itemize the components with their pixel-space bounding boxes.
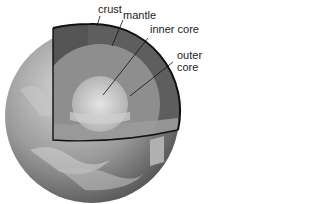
label-crust: crust [98,3,122,15]
label-inner-core: inner core [150,23,199,35]
label-outer-core-line1: outer [177,49,202,61]
label-mantle: mantle [123,9,156,21]
label-outer-core-line2: core [177,61,198,73]
